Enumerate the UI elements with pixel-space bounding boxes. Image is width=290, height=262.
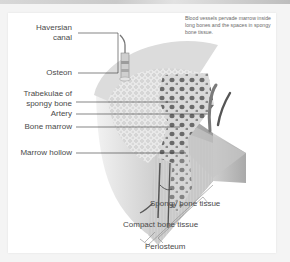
label-spongy-bone-tissue: Spongy bone tissue bbox=[150, 199, 220, 209]
haversian-vessel bbox=[120, 35, 125, 53]
label-marrow-hollow: Marrow hollow bbox=[10, 148, 72, 158]
label-compact-bone-tissue: Compact bone tissue bbox=[123, 220, 198, 230]
top-strip bbox=[0, 0, 290, 4]
label-periosteum: Periosteum bbox=[145, 242, 185, 252]
figure-caption: Blood vessels pervade marrow inside long… bbox=[185, 15, 277, 36]
osteon-cylinder bbox=[121, 53, 129, 79]
bone-cross-section-illustration bbox=[8, 13, 276, 253]
label-haversian-canal: Haversian canal bbox=[14, 23, 72, 43]
label-trabeculae: Trabekulae of spongy bone bbox=[10, 89, 72, 109]
diagram-card: Blood vessels pervade marrow inside long… bbox=[8, 13, 276, 253]
vein-vessel bbox=[218, 93, 230, 125]
label-bone-marrow: Bone marrow bbox=[10, 122, 72, 132]
label-osteon: Osteon bbox=[14, 68, 72, 78]
label-artery: Artery bbox=[14, 109, 72, 119]
